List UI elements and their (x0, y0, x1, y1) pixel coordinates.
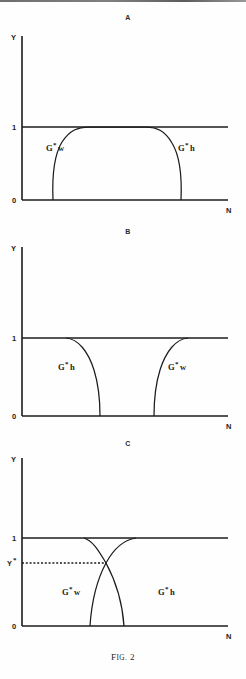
panel-c-tick-one: 1 (12, 534, 16, 543)
panel-a-region-label-right: G * h (178, 141, 195, 153)
panel-c-right-region-g: G (158, 587, 165, 597)
panel-c-left-region-g: G (62, 587, 69, 597)
panel-b-region-label-left: G * h (58, 360, 75, 372)
panel-a-left-region-star: * (53, 141, 57, 149)
panel-b-right-region-star: * (175, 360, 179, 368)
panel-c-ystar-letter: Y (7, 559, 12, 568)
panel-b-left-region-g: G (58, 362, 65, 372)
panel-b-curve-left (66, 338, 100, 416)
panel-a-region-label-left: G * w (46, 141, 65, 153)
panel-a-tick-zero: 0 (12, 196, 16, 205)
panel-b-right-region-sub: w (180, 362, 187, 372)
figure-caption-number: 2 (130, 652, 135, 662)
panel-c-region-label-right: G * h (158, 585, 175, 597)
panel-c-region-label-left: G * w (62, 585, 81, 597)
panel-b-y-axis-label: Y (11, 244, 16, 253)
panel-a-plot: Y N 1 0 G * w G * h (0, 0, 246, 225)
panel-c-curve-ascending (90, 538, 136, 626)
panel-b-right-region-g: G (168, 362, 175, 372)
figure-caption-rest: IG. (116, 654, 127, 662)
panel-c-right-region-sub: h (170, 587, 175, 597)
panel-a-left-region-sub: w (58, 143, 65, 153)
panel-b-curve-right (154, 338, 188, 416)
panel-a-right-region-g: G (178, 143, 185, 153)
panel-b-tick-one: 1 (12, 334, 16, 343)
panel-a-x-axis-label: N (226, 206, 231, 215)
panel-b-left-region-star: * (65, 360, 69, 368)
panel-c-y-axis-label: Y (11, 455, 16, 464)
panel-a-curve-left (53, 127, 89, 200)
panel-c-left-region-sub: w (74, 587, 81, 597)
figure-caption: FIG. 2 (0, 652, 246, 662)
panel-b: B Y N 1 0 G * h G (0, 225, 246, 430)
panel-a-right-region-sub: h (190, 143, 195, 153)
panel-b-region-label-right: G * w (168, 360, 187, 372)
panel-b-tick-zero: 0 (12, 412, 16, 421)
panel-c-plot: Y N 1 0 Y * G * w G * h (0, 430, 246, 645)
panel-b-plot: Y N 1 0 G * h G * w (0, 225, 246, 430)
figure-page: A Y N 1 0 G * w G (0, 0, 246, 679)
panel-a-left-region-g: G (46, 143, 53, 153)
panel-a-curve-right (146, 127, 181, 200)
panel-a-y-axis-label: Y (11, 33, 16, 42)
panel-a: A Y N 1 0 G * w G (0, 0, 246, 225)
panel-c-left-region-star: * (69, 585, 73, 593)
panel-c-ystar-star: * (13, 556, 17, 564)
panel-a-tick-one: 1 (12, 123, 16, 132)
panel-c-curve-descending (84, 538, 124, 626)
panel-b-x-axis-label: N (226, 422, 231, 430)
panel-c-tick-zero: 0 (12, 622, 16, 631)
panel-a-right-region-star: * (185, 141, 189, 149)
panel-c-x-axis-label: N (226, 632, 231, 641)
panel-c: C Y N 1 0 Y * (0, 430, 246, 645)
panel-c-ystar-label: Y * (7, 556, 17, 568)
panel-c-right-region-star: * (165, 585, 169, 593)
panel-b-left-region-sub: h (70, 362, 75, 372)
